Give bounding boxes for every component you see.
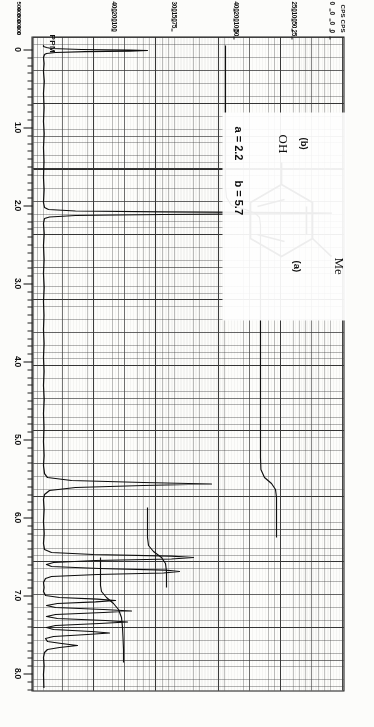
cps-tick-label: 25 (290, 29, 297, 36)
ppm-tick-minor (27, 478, 32, 479)
cps-tick-label: 50 (290, 21, 297, 28)
ppm-tick-major (23, 439, 32, 440)
ppm-tick-minor (27, 143, 32, 144)
ppm-tick-minor (27, 104, 32, 105)
ppm-tick-minor (27, 275, 32, 276)
ppm-tick-minor (27, 150, 32, 151)
ppm-tick-minor (27, 548, 32, 549)
ppm-tick-minor (27, 228, 32, 229)
ppm-tick-minor (27, 353, 32, 354)
ppm-tick-major (23, 517, 32, 518)
ppm-tick-minor (27, 384, 32, 385)
ppm-tick-minor (27, 416, 32, 417)
substituent-label-me: Me (330, 257, 346, 274)
ppm-tick-minor (27, 197, 32, 198)
ppm-tick-minor (27, 65, 32, 66)
cps-tickmark (233, 36, 234, 39)
ppm-tick-minor (27, 634, 32, 635)
cps-row: 400200100 (107, 0, 117, 36)
ppm-tick-minor (27, 244, 32, 245)
ppm-tick-minor (27, 431, 32, 432)
ppm-tick-minor (27, 322, 32, 323)
ppm-tick-minor (27, 299, 32, 300)
ppm-tick-minor (27, 338, 32, 339)
ppm-tick-major (23, 361, 32, 362)
ppm-tick-minor (27, 80, 32, 81)
frequency-scale: 5004003002001000 (2, 0, 22, 36)
ppm-tick-label: 0 (12, 47, 22, 52)
frequency-scale-label: 0 (15, 31, 22, 34)
rotated-chart-stage: Me (a) OH (b) a = 2.2 b = 5.7 PPM 01.02.… (0, 0, 374, 727)
ppm-tick-label: 7.0 (12, 589, 22, 600)
ppm-tick-major (23, 49, 32, 50)
ppm-tick-minor (27, 447, 32, 448)
cps-tick-label: 0 (328, 1, 335, 4)
ppm-tick-minor (27, 579, 32, 580)
ppm-tick-minor (27, 564, 32, 565)
ppm-tick-minor (27, 267, 32, 268)
ppm-tick-minor (27, 650, 32, 651)
cps-tickmark (329, 36, 330, 39)
ppm-tick-minor (27, 626, 32, 627)
ppm-tick-label: 3.0 (12, 277, 22, 288)
ppm-tick-minor (27, 314, 32, 315)
cps-row: 2501005025 (287, 0, 297, 36)
ppm-tick-label: 6.0 (12, 511, 22, 522)
ppm-tick-minor (27, 462, 32, 463)
integral-curve-path-2 (147, 507, 166, 587)
ppm-tick-label: 5.0 (12, 433, 22, 444)
assignment-tag-a: (a) (291, 260, 302, 272)
ppm-tick-minor (27, 509, 32, 510)
cps-row: 40020010050 (229, 0, 239, 36)
ppm-tick-label: 4.0 (12, 355, 22, 366)
ppm-tick-minor (27, 657, 32, 658)
ppm-tick-label: 1.0 (12, 121, 22, 132)
ppm-tick-minor (27, 642, 32, 643)
cps-tick-label: 50 (232, 29, 239, 36)
ppm-tick-minor (27, 486, 32, 487)
ppm-tick-label: 8.0 (12, 667, 22, 678)
molecule-structure: Me (a) OH (b) a = 2.2 b = 5.7 (222, 120, 340, 320)
cps-row: 0000 (325, 0, 335, 36)
ppm-tick-minor (27, 158, 32, 159)
ppm-tick-minor (27, 400, 32, 401)
ppm-tick-minor (27, 556, 32, 557)
cps-tick-label: 0 (328, 29, 335, 32)
ppm-tick-minor (27, 470, 32, 471)
cps-row: 30015075 (167, 0, 177, 36)
ppm-tick-minor (27, 135, 32, 136)
ppm-tick-minor (27, 174, 32, 175)
substituent-label-oh: OH (274, 134, 290, 153)
ppm-unit-label: PPM (47, 34, 56, 53)
ppm-tick-minor (27, 494, 32, 495)
ppm-tick-minor (27, 455, 32, 456)
ppm-tick-major (23, 127, 32, 128)
ppm-tick-minor (27, 392, 32, 393)
assignment-tag-b: (b) (298, 137, 309, 149)
ppm-tick-minor (27, 88, 32, 89)
nmr-chart-page: Me (a) OH (b) a = 2.2 b = 5.7 PPM 01.02.… (0, 0, 374, 727)
ppm-tick-minor (27, 572, 32, 573)
cps-header-right: CPS (339, 19, 346, 32)
ppm-tick-minor (27, 423, 32, 424)
ppm-tick-major (23, 283, 32, 284)
ppm-tick-major (23, 673, 32, 674)
shift-annotation-a: a = 2.2 (232, 126, 244, 160)
ppm-tick-major (23, 205, 32, 206)
ppm-tick-minor (27, 611, 32, 612)
ppm-tick-minor (27, 377, 32, 378)
ppm-tick-minor (27, 221, 32, 222)
cps-header-left: CPS (339, 4, 346, 17)
ppm-tick-minor (27, 618, 32, 619)
ppm-tick-minor (27, 96, 32, 97)
cps-tick-label: 0 (328, 11, 335, 14)
ppm-tick-minor (27, 501, 32, 502)
ppm-tick-minor (27, 345, 32, 346)
ppm-tick-minor (27, 182, 32, 183)
ppm-tick-minor (27, 57, 32, 58)
ppm-axis: PPM 01.02.03.04.05.06.07.08.0 (2, 36, 32, 691)
ppm-tick-minor (27, 291, 32, 292)
ppm-tick-minor (27, 408, 32, 409)
cps-axis: CPS CPS 00002501005025400200100503001507… (32, 0, 344, 36)
ppm-tick-minor (27, 111, 32, 112)
